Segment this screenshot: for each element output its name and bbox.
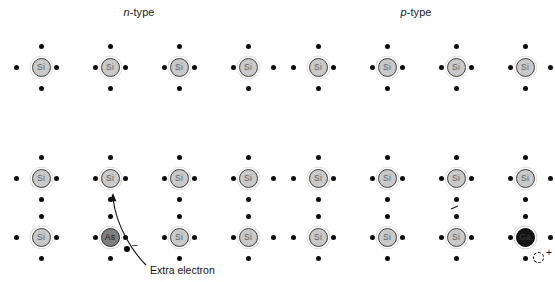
lattice-p-type: SiSiSiSiSiSiSiSiSiSiSiGa (277, 0, 555, 282)
bond-dot-v-top (316, 44, 321, 49)
atom-si-r2-c1: Si (378, 228, 397, 247)
bond-dot-h (370, 65, 375, 70)
atom-si-r2-c2: Si (170, 228, 189, 247)
bond-dot-v (39, 214, 44, 219)
bond-dot-h (439, 65, 444, 70)
atom-si-r2-c0: Si (32, 228, 51, 247)
bond-dot-v (177, 197, 182, 202)
edge-dot-right (548, 235, 553, 240)
bond-dot-h (508, 176, 513, 181)
bond-dot-v (454, 214, 459, 219)
bond-dot-v (385, 214, 390, 219)
bond-dot-v (523, 86, 528, 91)
atom-si-r1-c3: Si (516, 169, 535, 188)
bond-dot-h (231, 65, 236, 70)
bond-dot-h (231, 235, 236, 240)
bond-dot-h (192, 65, 197, 70)
bond-dot-h (370, 176, 375, 181)
bond-dot-v (316, 155, 321, 160)
bond-dot-v (39, 197, 44, 202)
bond-dot-v (108, 86, 113, 91)
edge-dot-right (548, 176, 553, 181)
edge-dot-right (271, 65, 276, 70)
bond-dot-v (246, 86, 251, 91)
extra-electron-label: Extra electron (150, 265, 215, 276)
bond-dot-h (439, 235, 444, 240)
atom-si-r1-c3: Si (239, 169, 258, 188)
bond-dot-h (439, 176, 444, 181)
bond-dot-v (523, 155, 528, 160)
edge-dot-right (271, 176, 276, 181)
atom-si-r2-c3: Si (239, 228, 258, 247)
bond-dot-v (385, 155, 390, 160)
atom-si-r0-c1: Si (378, 58, 397, 77)
bond-dot-h (54, 65, 59, 70)
bond-dot-h (162, 65, 167, 70)
bond-dot-v (177, 155, 182, 160)
atom-si-r1-c2: Si (170, 169, 189, 188)
atom-si-r0-c1: Si (101, 58, 120, 77)
bond-dot-h (469, 176, 474, 181)
bond-dot-v (316, 86, 321, 91)
bond-dot-h (331, 235, 336, 240)
bond-dot-h (508, 65, 513, 70)
bond-dot-v (246, 197, 251, 202)
bond-dot-h (123, 235, 128, 240)
hole-marker (533, 252, 544, 263)
bond-dot-h (508, 235, 513, 240)
hole-charge-sign: + (546, 248, 552, 258)
atom-si-r0-c0: Si (32, 58, 51, 77)
atom-si-r1-c1: Si (378, 169, 397, 188)
bond-dot-v (39, 155, 44, 160)
bond-dot-v-top (108, 44, 113, 49)
bond-dot-v (385, 197, 390, 202)
bond-dot-v (316, 197, 321, 202)
bond-dot-h (162, 176, 167, 181)
atom-si-r0-c3: Si (516, 58, 535, 77)
atom-si-r1-c0: Si (309, 169, 328, 188)
atom-si-r1-c0: Si (32, 169, 51, 188)
bond-dot-v (523, 197, 528, 202)
dopant-atom-as: As (101, 228, 120, 247)
bond-dot-h (93, 176, 98, 181)
bond-dot-h (370, 235, 375, 240)
bond-dot-v (523, 214, 528, 219)
edge-dot-right (548, 65, 553, 70)
bond-dot-v (454, 256, 459, 261)
bond-dot-v (454, 155, 459, 160)
bond-dot-h (469, 65, 474, 70)
bond-dot-v (177, 214, 182, 219)
bond-dot-v-top (246, 44, 251, 49)
bond-dot-v (454, 197, 459, 202)
bond-dot-v-top (385, 44, 390, 49)
bond-dot-v (316, 256, 321, 261)
bond-dot-h (400, 235, 405, 240)
bond-dot-h (54, 176, 59, 181)
bond-dot-h (54, 235, 59, 240)
bond-dot-h (123, 65, 128, 70)
bond-dot-h (192, 235, 197, 240)
edge-dot-left (14, 65, 19, 70)
atom-si-r1-c2: Si (447, 169, 466, 188)
bond-dot-v (454, 86, 459, 91)
bond-dot-h (400, 65, 405, 70)
atom-si-r0-c2: Si (447, 58, 466, 77)
atom-si-r2-c2: Si (447, 228, 466, 247)
bond-dot-v (246, 256, 251, 261)
bond-dot-v (108, 214, 113, 219)
bond-dot-v (246, 155, 251, 160)
bond-dot-h (400, 176, 405, 181)
bond-dot-v (385, 256, 390, 261)
bond-dot-v (39, 256, 44, 261)
bond-dot-h (162, 235, 167, 240)
bond-dot-v (316, 214, 321, 219)
atom-si-r0-c2: Si (170, 58, 189, 77)
bond-dot-v (108, 256, 113, 261)
bond-dot-h (93, 235, 98, 240)
bond-dot-h (123, 176, 128, 181)
bond-dot-v (108, 197, 113, 202)
bond-dot-h (93, 65, 98, 70)
edge-dot-right (271, 235, 276, 240)
bond-dot-v (246, 214, 251, 219)
edge-dot-left (291, 176, 296, 181)
